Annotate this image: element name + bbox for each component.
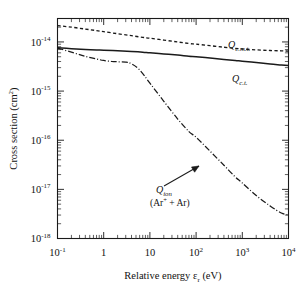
x-tick-label: 103 (235, 246, 250, 259)
y-tick-label: 10-14 (31, 35, 51, 48)
y-tick-label: 10-16 (31, 133, 51, 146)
x-tick-label: 1 (101, 247, 106, 258)
series-curve-Qemt (58, 26, 289, 52)
series-curve-Qion (58, 48, 289, 215)
x-tick-label: 10-1 (49, 246, 66, 259)
svg-text:Cross section (cm2): Cross section (cm2) (7, 87, 21, 170)
x-tick-label: 10 (145, 247, 156, 258)
curve-label-emt: Qe.m.t. (228, 39, 250, 52)
curve-annotation-ion: (Ar+ + Ar) (150, 196, 190, 209)
y-tick-label: 10-18 (31, 232, 51, 245)
annotation-arrow-head (192, 166, 200, 172)
y-axis-title: Cross section (cm2) (7, 87, 21, 170)
x-tick-label: 102 (189, 246, 204, 259)
series-curve-Qct (58, 48, 289, 66)
x-tick-label: 104 (282, 246, 297, 259)
y-tick-label: 10-15 (31, 84, 51, 97)
x-axis-title: Relative energy εr (eV) (124, 270, 222, 284)
cross-section-log-log-chart: 10-111010210310410-1410-1510-1610-1710-1… (0, 0, 305, 292)
curve-label-ct: Qc.t. (232, 73, 248, 86)
y-tick-label: 10-17 (31, 182, 51, 195)
figure-container: 10-111010210310410-1410-1510-1610-1710-1… (0, 0, 305, 292)
